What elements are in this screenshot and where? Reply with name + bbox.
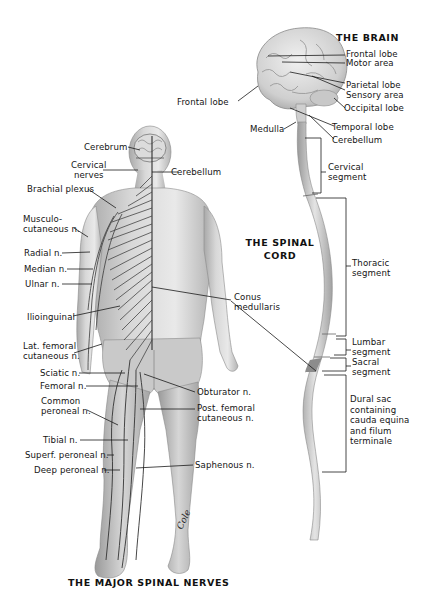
label-dural-sac-line2: containing	[350, 405, 409, 416]
label-ulnar: Ulnar n.	[25, 279, 60, 289]
label-medulla: Medulla	[250, 124, 284, 134]
label-musculocutaneous-line2: cutaneous n.	[23, 224, 80, 234]
label-conus-medullaris: Conus medullaris	[234, 292, 280, 312]
label-saphenous: Saphenous n.	[195, 460, 255, 470]
label-sacral-segment-line1: Sacral	[352, 357, 390, 367]
label-dural-sac-line1: Dural sac	[350, 394, 409, 405]
label-obturator: Obturator n.	[197, 387, 251, 397]
label-common-peroneal-line2: peroneal n.	[41, 406, 91, 416]
label-ilioinguinal: Ilioinguinal	[27, 312, 75, 322]
label-sacral-segment: Sacral segment	[352, 357, 390, 377]
label-motor-area: Motor area	[346, 58, 394, 68]
label-median: Median n.	[24, 264, 67, 274]
label-lat-femoral-line2: cutaneous n.	[23, 351, 80, 361]
label-cervical-nerves: Cervical nerves	[71, 160, 106, 180]
label-lat-femoral-cutaneous: Lat. femoral cutaneous n.	[23, 341, 80, 361]
label-sacral-segment-line2: segment	[352, 367, 390, 377]
label-sciatic: Sciatic n.	[40, 368, 80, 378]
body-figure	[77, 126, 238, 578]
label-brachial-plexus: Brachial plexus	[27, 184, 94, 194]
title-brain: THE BRAIN	[336, 31, 399, 44]
label-conus-medullaris-line1: Conus	[234, 292, 280, 302]
label-tibial: Tibial n.	[43, 435, 78, 445]
label-cerebrum: Cerebrum	[84, 142, 128, 152]
label-lat-femoral-line1: Lat. femoral	[23, 341, 80, 351]
label-cervical-segment: Cervical segment	[328, 162, 366, 182]
label-lumbar-segment: Lumbar segment	[352, 337, 390, 357]
label-cervical-nerves-line2: nerves	[71, 170, 106, 180]
label-dural-sac-line5: terminale	[350, 436, 409, 447]
brain-illustration	[257, 28, 347, 124]
title-spinal-cord-line2: CORD	[240, 249, 320, 262]
label-temporal-lobe: Temporal lobe	[332, 122, 394, 132]
label-common-peroneal-line1: Common	[41, 396, 91, 406]
label-cervical-segment-line1: Cervical	[328, 162, 366, 172]
title-spinal-nerves: THE MAJOR SPINAL NERVES	[68, 576, 230, 589]
label-cervical-segment-line2: segment	[328, 172, 366, 182]
label-femoral: Femoral n.	[40, 381, 87, 391]
label-conus-medullaris-line2: medullaris	[234, 302, 280, 312]
label-brain-cerebellum: Cerebellum	[332, 135, 382, 145]
label-radial: Radial n.	[24, 248, 62, 258]
label-superf-peroneal: Superf. peroneal n.	[25, 450, 109, 460]
label-parietal-lobe: Parietal lobe	[346, 80, 401, 90]
label-post-femoral-line1: Post. femoral	[197, 403, 255, 413]
label-thoracic-segment-line1: Thoracic	[352, 258, 390, 268]
label-lumbar-segment-line2: segment	[352, 347, 390, 357]
spinal-cord-illustration	[297, 122, 336, 540]
label-common-peroneal: Common peroneal n.	[41, 396, 91, 416]
label-lumbar-segment-line1: Lumbar	[352, 337, 390, 347]
label-post-femoral-cutaneous: Post. femoral cutaneous n.	[197, 403, 255, 423]
anatomy-figure: Cole THE BRAIN THE SPINAL CORD THE MAJOR…	[0, 0, 425, 600]
label-musculocutaneous-line1: Musculo-	[23, 214, 80, 224]
label-body-cerebellum: Cerebellum	[171, 167, 221, 177]
label-frontal-lobe-side: Frontal lobe	[177, 97, 229, 107]
label-thoracic-segment: Thoracic segment	[352, 258, 390, 278]
label-musculocutaneous: Musculo- cutaneous n.	[23, 214, 80, 234]
label-sensory-area: Sensory area	[346, 90, 404, 100]
title-spinal-cord-line1: THE SPINAL	[240, 236, 320, 249]
label-cervical-nerves-line1: Cervical	[71, 160, 106, 170]
label-dural-sac-line3: cauda equina	[350, 415, 409, 426]
label-dural-sac-line4: and filum	[350, 426, 409, 437]
label-deep-peroneal: Deep peroneal n.	[34, 465, 110, 475]
label-dural-sac: Dural sac containing cauda equina and fi…	[350, 394, 409, 447]
title-spinal-cord: THE SPINAL CORD	[240, 236, 320, 262]
label-occipital-lobe: Occipital lobe	[344, 103, 404, 113]
label-post-femoral-line2: cutaneous n.	[197, 413, 255, 423]
label-thoracic-segment-line2: segment	[352, 268, 390, 278]
